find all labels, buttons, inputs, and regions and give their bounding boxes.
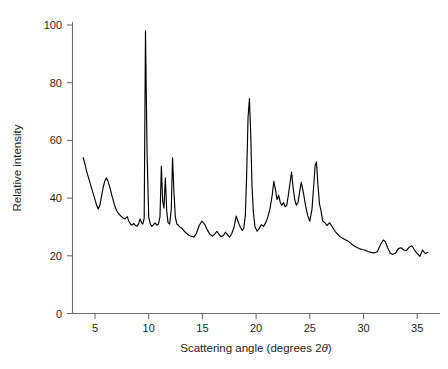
x-tick-label: 5 bbox=[92, 322, 98, 334]
y-tick-label: 40 bbox=[50, 192, 62, 204]
y-tick-label: 100 bbox=[44, 19, 62, 31]
y-tick-label: 60 bbox=[50, 134, 62, 146]
y-tick-label: 80 bbox=[50, 77, 62, 89]
x-tick-label: 15 bbox=[196, 322, 208, 334]
diffraction-curve bbox=[83, 31, 428, 257]
x-tick-label: 20 bbox=[250, 322, 262, 334]
y-tick-label: 0 bbox=[56, 308, 62, 320]
y-tick-label: 20 bbox=[50, 250, 62, 262]
plot-area: 020406080100 5101520253035 Relative inte… bbox=[0, 0, 448, 369]
x-axis-title: Scattering angle (degrees 2θ) bbox=[180, 342, 332, 354]
x-tick-label: 10 bbox=[143, 322, 155, 334]
x-tick-label: 35 bbox=[411, 322, 423, 334]
x-axis-ticks: 5101520253035 bbox=[92, 314, 423, 335]
y-axis-title: Relative intensity bbox=[11, 124, 23, 211]
y-axis-ticks: 020406080100 bbox=[44, 19, 73, 320]
x-tick-label: 25 bbox=[304, 322, 316, 334]
xrd-diffraction-chart: 020406080100 5101520253035 Relative inte… bbox=[0, 0, 448, 369]
x-tick-label: 30 bbox=[357, 322, 369, 334]
